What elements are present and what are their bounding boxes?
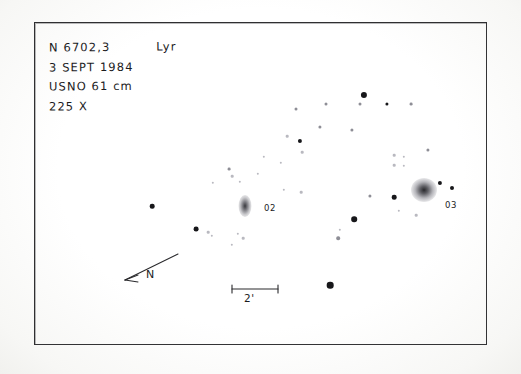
star-point <box>298 139 302 143</box>
star-point <box>286 135 289 138</box>
star-point <box>228 168 231 171</box>
star-point <box>239 181 241 183</box>
star-point <box>280 162 282 164</box>
star-field <box>0 0 521 374</box>
star-point <box>257 173 259 175</box>
star-point <box>359 103 362 106</box>
star-point <box>368 194 371 197</box>
star-point <box>300 191 303 194</box>
star-point <box>194 227 199 232</box>
scale-label: 2' <box>244 292 255 304</box>
star-point <box>351 216 357 222</box>
scale-bar-icon <box>231 284 279 293</box>
star-point <box>207 231 210 234</box>
star-point <box>237 233 239 235</box>
star-point <box>211 235 213 237</box>
star-point <box>327 282 334 289</box>
star-point <box>336 236 340 240</box>
star-point <box>393 164 396 167</box>
star-point <box>392 195 397 200</box>
galaxy-ngc6703 <box>411 178 437 202</box>
sketch-page: N 6702,3 Lyr 3 SEPT 1984 USNO 61 cm 225 … <box>0 0 521 374</box>
star-point <box>242 237 245 240</box>
star-point <box>263 156 265 158</box>
galaxy-ngc6702 <box>239 195 252 217</box>
star-point <box>426 148 429 151</box>
star-point <box>450 186 454 190</box>
star-point <box>350 128 353 131</box>
star-point <box>339 229 341 231</box>
star-point <box>318 125 321 128</box>
star-point <box>283 189 285 191</box>
star-point <box>438 181 442 185</box>
star-point <box>212 182 214 184</box>
star-point <box>385 102 388 105</box>
star-point <box>415 214 418 217</box>
star-point <box>231 244 233 246</box>
star-point <box>325 103 328 106</box>
star-point <box>403 165 405 167</box>
star-point <box>301 151 304 154</box>
galaxy-label-6702: 02 <box>264 203 276 213</box>
north-label: N <box>146 268 155 281</box>
star-point <box>150 204 155 209</box>
star-point <box>398 210 400 212</box>
galaxy-label-6703: 03 <box>445 200 457 210</box>
star-point <box>231 175 234 178</box>
star-point <box>410 103 413 106</box>
star-point <box>403 156 405 158</box>
star-point <box>295 108 298 111</box>
star-point <box>361 92 367 98</box>
star-point <box>393 154 396 157</box>
